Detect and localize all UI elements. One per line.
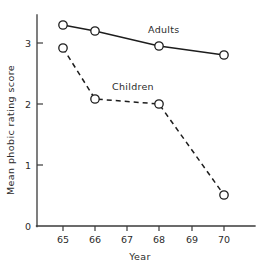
x-axis-ticks: 65 66 67 68 69 70: [57, 226, 230, 245]
x-axis-title: Year: [128, 251, 151, 262]
adults-point-65: [59, 21, 67, 29]
children-point-66: [91, 95, 99, 103]
x-tick-label-65: 65: [57, 234, 69, 245]
series-adults: Adults: [59, 21, 228, 59]
x-tick-label-66: 66: [89, 234, 101, 245]
adults-point-68: [155, 42, 163, 50]
y-tick-label-0: 0: [25, 221, 31, 232]
children-series-label: Children: [112, 81, 154, 92]
adults-point-70: [220, 51, 228, 59]
y-tick-label-2: 2: [25, 99, 31, 110]
adults-series-label: Adults: [148, 24, 180, 35]
y-tick-label-1: 1: [25, 160, 31, 171]
x-tick-label-70: 70: [218, 234, 230, 245]
x-tick-label-67: 67: [121, 234, 133, 245]
children-line: [63, 48, 224, 195]
adults-point-66: [91, 27, 99, 35]
chart-figure: 3 2 1 0 65 66 67 68 69 70 Year Mean phob…: [0, 0, 260, 267]
adults-line: [63, 25, 224, 55]
series-children: Children: [59, 44, 228, 199]
line-chart: 3 2 1 0 65 66 67 68 69 70 Year Mean phob…: [0, 0, 260, 267]
children-point-70: [220, 191, 228, 199]
x-tick-label-69: 69: [186, 234, 198, 245]
children-point-68: [155, 100, 163, 108]
x-tick-label-68: 68: [153, 234, 165, 245]
children-point-65: [59, 44, 67, 52]
y-axis-ticks: 3 2 1 0: [25, 38, 43, 232]
y-tick-label-3: 3: [25, 38, 31, 49]
y-axis-title: Mean phobic rating score: [5, 65, 16, 195]
